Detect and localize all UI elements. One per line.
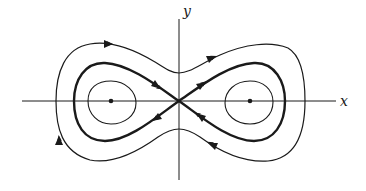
x-axis-label: x [340,94,348,108]
arrow-icon [104,40,113,48]
phase-portrait-figure: y x [0,0,366,191]
y-axis-label: y [183,4,191,18]
separatrix-left-loop [74,63,179,141]
phase-portrait-svg [0,0,366,191]
separatrix-right-loop [179,63,285,141]
center-point-left [109,99,114,104]
center-point-right [248,99,253,104]
arrow-icon [206,56,216,63]
arrow-icon [208,143,218,150]
